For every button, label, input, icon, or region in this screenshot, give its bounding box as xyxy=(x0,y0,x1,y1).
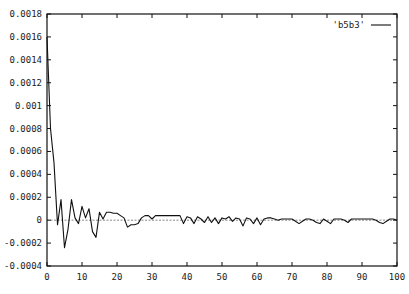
y-tick-label: 0.0012 xyxy=(9,78,42,88)
x-tick-label: 60 xyxy=(252,272,263,282)
y-tick-label: -0.0002 xyxy=(4,238,42,248)
x-tick-label: 80 xyxy=(322,272,333,282)
x-tick-label: 90 xyxy=(357,272,368,282)
plot-frame xyxy=(47,14,397,266)
x-tick-label: 50 xyxy=(217,272,228,282)
y-tick-label: 0.0002 xyxy=(9,192,42,202)
y-tick-label: 0.0004 xyxy=(9,169,42,179)
y-tick-label: 0.0008 xyxy=(9,124,42,134)
x-axis-ticks: 0102030405060708090100 xyxy=(44,14,405,282)
x-tick-label: 100 xyxy=(389,272,405,282)
legend-label: 'b5b3' xyxy=(332,20,365,30)
y-tick-label: 0.0006 xyxy=(9,146,42,156)
y-tick-label: -0.0004 xyxy=(4,261,42,271)
y-tick-label: 0.001 xyxy=(15,101,42,111)
y-tick-label: 0.0016 xyxy=(9,32,42,42)
x-tick-label: 10 xyxy=(77,272,88,282)
x-tick-label: 40 xyxy=(182,272,193,282)
line-chart: -0.0004-0.000200.00020.00040.00060.00080… xyxy=(0,0,409,294)
x-tick-label: 20 xyxy=(112,272,123,282)
legend: 'b5b3' xyxy=(332,20,391,30)
y-tick-label: 0 xyxy=(37,215,42,225)
y-tick-label: 0.0018 xyxy=(9,9,42,19)
x-tick-label: 70 xyxy=(287,272,298,282)
y-tick-label: 0.0014 xyxy=(9,55,42,65)
x-tick-label: 0 xyxy=(44,272,49,282)
x-tick-label: 30 xyxy=(147,272,158,282)
series-line-b5b3 xyxy=(47,37,397,248)
